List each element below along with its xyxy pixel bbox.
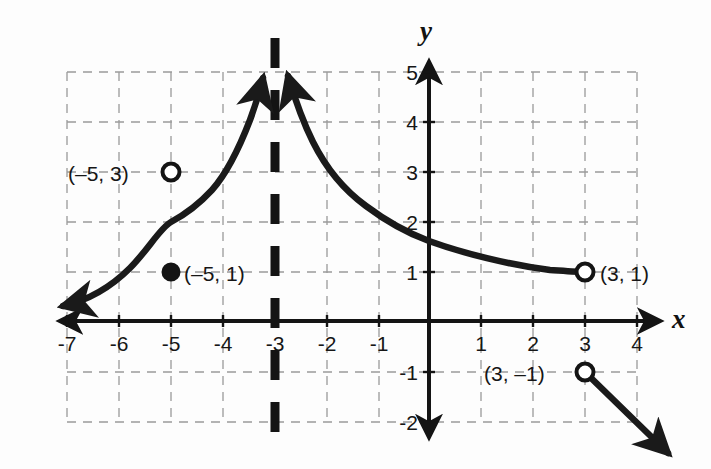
closed-point-neg5-1 (163, 264, 180, 281)
y-tick-label-4: 4 (392, 112, 418, 133)
y-tick-label-neg1: -1 (384, 362, 418, 383)
open-point-3-1 (577, 264, 594, 281)
x-axis-label: x (672, 306, 686, 333)
grid-vertical-lines (67, 72, 637, 422)
label-open-point-3-1: (3, 1) (600, 263, 649, 284)
x-tick-label-3: 3 (570, 333, 600, 354)
x-tick-label-neg4: -4 (208, 333, 238, 354)
x-tick-label-neg2: -2 (312, 333, 342, 354)
x-tick-label-neg1: -1 (364, 333, 394, 354)
label-open-point-3-neg1: (3, –1) (484, 363, 545, 384)
coordinate-plane (0, 0, 711, 469)
x-tick-label-4: 4 (622, 333, 652, 354)
open-point-neg5-3 (163, 164, 180, 181)
curve-right-branch (288, 76, 585, 272)
x-tick-label-neg7: -7 (52, 333, 82, 354)
label-closed-point-neg5-1: (–5, 1) (184, 263, 245, 284)
label-open-point-neg5-3: (–5, 3) (68, 163, 129, 184)
x-tick-label-neg5: -5 (156, 333, 186, 354)
x-tick-label-neg3: -3 (260, 333, 290, 354)
y-tick-label-3: 3 (392, 162, 418, 183)
y-tick-label-1: 1 (392, 262, 418, 283)
graph-figure: -7 -6 -5 -4 -3 -2 -1 1 2 3 4 5 4 3 2 1 -… (0, 0, 711, 469)
open-point-3-neg1 (577, 364, 594, 381)
y-tick-label-5: 5 (392, 62, 418, 83)
y-axis-label: y (420, 18, 432, 45)
x-tick-label-neg6: -6 (104, 333, 134, 354)
y-tick-label-neg2: -2 (384, 412, 418, 433)
x-tick-label-2: 2 (518, 333, 548, 354)
x-tick-label-1: 1 (466, 333, 496, 354)
grid-horizontal-lines (67, 72, 637, 422)
ray-lower-right (589, 376, 668, 453)
y-tick-label-2: 2 (392, 212, 418, 233)
